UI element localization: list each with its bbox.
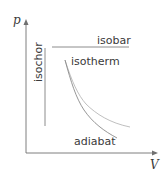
pv-diagram: p V isobar isochor isotherm adiabat — [0, 0, 165, 170]
y-axis — [24, 19, 29, 153]
adiabat-curve — [65, 60, 117, 138]
x-axis — [26, 151, 158, 156]
isochor-label: isochor — [32, 42, 45, 82]
isotherm-label: isotherm — [71, 55, 120, 68]
y-axis-arrow-icon — [24, 19, 29, 25]
y-axis-label: p — [13, 13, 21, 27]
x-axis-arrow-icon — [152, 151, 158, 156]
isotherm-curve — [65, 60, 130, 127]
x-axis-label: V — [150, 158, 160, 170]
isobar-label: isobar — [97, 34, 131, 47]
adiabat-label: adiabat — [74, 135, 116, 148]
